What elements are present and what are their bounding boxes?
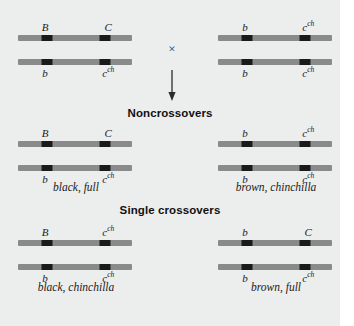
- allele-label-c-locus: C: [105, 128, 112, 139]
- allele-label-b-locus: B: [42, 22, 49, 33]
- parent-right-top-homolog: b cch: [214, 22, 338, 46]
- genetics-cross-diagram: B C b cch b cch: [0, 0, 340, 326]
- parent-left-top-homolog: B C: [14, 22, 138, 46]
- allele-label-c-locus: C: [305, 227, 312, 238]
- locus-band-c: [299, 240, 310, 246]
- allele-label-b-locus: B: [42, 128, 49, 139]
- locus-band-b: [241, 59, 252, 65]
- locus-band-c: [299, 165, 310, 171]
- parent-left-chromosomes: B C b cch: [14, 22, 138, 79]
- phenotype-label: black, full: [14, 181, 138, 193]
- locus-band-b: [241, 141, 252, 147]
- locus-band-b: [241, 165, 252, 171]
- locus-band-b: [241, 35, 252, 41]
- chromosome-bar: [218, 165, 332, 171]
- chromosome-bar: [18, 165, 132, 171]
- chromosome-bar: [218, 264, 332, 270]
- noncrossover-right-chromosomes: b cch b cch: [214, 128, 338, 185]
- allele-label-b-locus: B: [42, 227, 49, 238]
- locus-band-c: [299, 35, 310, 41]
- locus-band-c: [99, 165, 110, 171]
- phenotype-label: brown, full: [214, 281, 338, 293]
- down-arrow-icon: [166, 70, 178, 106]
- allele-label-b-locus: b: [42, 68, 48, 79]
- allele-label-c-locus: C: [105, 22, 112, 33]
- locus-band-b: [41, 141, 52, 147]
- allele-label-c-locus: cch: [302, 68, 314, 79]
- chromosome-bar: [218, 141, 332, 147]
- section-heading-single-crossovers: Single crossovers: [0, 204, 340, 216]
- allele-label-b-locus: b: [242, 68, 248, 79]
- locus-band-c: [99, 35, 110, 41]
- locus-band-c: [99, 240, 110, 246]
- progeny-top-homolog: B C: [14, 128, 138, 152]
- chromosome-bar: [18, 264, 132, 270]
- phenotype-label: black, chinchilla: [14, 281, 138, 293]
- locus-band-b: [41, 264, 52, 270]
- phenotype-label: brown, chinchilla: [214, 181, 338, 193]
- parent-right-chromosomes: b cch b cch: [214, 22, 338, 79]
- parent-left-bottom-homolog: b cch: [14, 55, 138, 79]
- cross-multiplication-symbol: ×: [162, 41, 182, 57]
- chromosome-bar: [18, 59, 132, 65]
- locus-band-c: [299, 59, 310, 65]
- chromosome-bar: [18, 35, 132, 41]
- locus-band-c: [299, 141, 310, 147]
- progeny-top-homolog: B cch: [14, 227, 138, 251]
- locus-band-c: [99, 264, 110, 270]
- noncrossover-left-chromosomes: B C b cch: [14, 128, 138, 185]
- locus-band-b: [241, 240, 252, 246]
- allele-label-c-locus: cch: [302, 22, 314, 33]
- allele-label-b-locus: b: [242, 227, 248, 238]
- locus-band-b: [41, 165, 52, 171]
- section-heading-noncrossovers: Noncrossovers: [0, 107, 340, 119]
- chromosome-bar: [18, 240, 132, 246]
- locus-band-c: [99, 141, 110, 147]
- allele-label-c-locus: cch: [102, 68, 114, 79]
- allele-label-c-locus: cch: [302, 128, 314, 139]
- chromosome-bar: [218, 35, 332, 41]
- locus-band-b: [241, 264, 252, 270]
- progeny-top-homolog: b cch: [214, 128, 338, 152]
- locus-band-c: [99, 59, 110, 65]
- locus-band-c: [299, 264, 310, 270]
- allele-label-b-locus: b: [242, 128, 248, 139]
- allele-label-b-locus: b: [242, 22, 248, 33]
- locus-band-b: [41, 35, 52, 41]
- crossover-left-chromosomes: B cch b cch: [14, 227, 138, 284]
- allele-label-c-locus: cch: [102, 227, 114, 238]
- crossover-right-chromosomes: b C b cch: [214, 227, 338, 284]
- chromosome-bar: [18, 141, 132, 147]
- parent-right-bottom-homolog: b cch: [214, 55, 338, 79]
- locus-band-b: [41, 59, 52, 65]
- locus-band-b: [41, 240, 52, 246]
- chromosome-bar: [218, 59, 332, 65]
- chromosome-bar: [218, 240, 332, 246]
- progeny-top-homolog: b C: [214, 227, 338, 251]
